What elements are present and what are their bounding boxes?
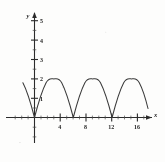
y-tick-label-1: 1	[40, 96, 43, 102]
x-tick-label-12: 12	[108, 124, 114, 130]
x-axis-arrow	[146, 115, 152, 120]
x-tick-label-4: 4	[58, 124, 61, 130]
x-tick-label-8: 8	[84, 124, 87, 130]
y-axis-label: y	[26, 12, 30, 19]
y-axis-arrow	[32, 12, 37, 18]
figure-container: 5 4 3 2 1 4 8 12 16 y x	[0, 0, 165, 162]
y-tick-label-5: 5	[40, 18, 43, 24]
y-tick-labels: 5 4 3 2 1	[40, 18, 43, 102]
x-axis-label: x	[153, 111, 158, 118]
y-tick-label-4: 4	[40, 38, 43, 44]
x-tick-labels: 4 8 12 16	[58, 124, 140, 130]
y-tick-label-2: 2	[40, 76, 43, 82]
x-tick-label-16: 16	[134, 124, 140, 130]
y-axis-group	[32, 12, 37, 143]
figure-caption	[0, 153, 165, 162]
plot-canvas: 5 4 3 2 1 4 8 12 16 y x	[0, 0, 165, 162]
y-tick-label-3: 3	[40, 57, 43, 63]
